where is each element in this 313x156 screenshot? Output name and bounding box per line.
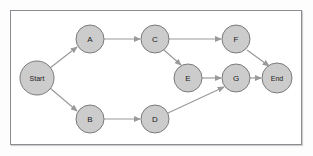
node-a-label: A [87, 35, 93, 44]
node-d-label: D [152, 115, 158, 124]
node-g[interactable]: G [222, 64, 250, 92]
node-d[interactable]: D [141, 105, 169, 133]
edge-f-to-end [247, 50, 269, 66]
node-start-label: Start [30, 75, 45, 82]
node-g-label: G [233, 74, 239, 83]
edge-c-to-e [164, 50, 181, 65]
flow-graph: StartABCDEFGEnd [0, 0, 313, 156]
node-b-label: B [87, 115, 92, 124]
edge-start-to-a [50, 47, 77, 68]
node-e-label: E [185, 74, 190, 83]
node-a[interactable]: A [76, 25, 104, 53]
node-c[interactable]: C [141, 25, 169, 53]
edge-start-to-b [50, 88, 77, 111]
diagram-canvas: StartABCDEFGEnd [0, 0, 313, 156]
node-start[interactable]: Start [20, 61, 54, 95]
node-f-label: F [234, 35, 239, 44]
node-end-label: End [271, 75, 284, 82]
node-c-label: C [152, 35, 158, 44]
node-end[interactable]: End [262, 63, 292, 93]
edge-d-to-g [168, 87, 224, 113]
nodes-layer: StartABCDEFGEnd [20, 25, 292, 133]
node-e[interactable]: E [174, 64, 202, 92]
node-f[interactable]: F [222, 25, 250, 53]
node-b[interactable]: B [76, 105, 104, 133]
